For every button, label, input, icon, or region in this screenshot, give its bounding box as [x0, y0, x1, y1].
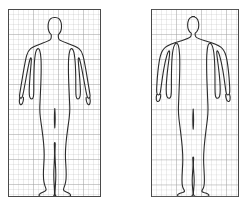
- lean-body-diagram: [8, 9, 101, 197]
- body-comparison-figure: [0, 0, 245, 210]
- heavy-body-panel: [151, 9, 239, 197]
- heavy-inner-leg-line: [193, 109, 194, 129]
- lean-body-panel: [8, 9, 101, 197]
- grid-major: [151, 9, 239, 197]
- lean-inner-leg-line: [54, 109, 55, 128]
- heavy-body-diagram: [151, 9, 239, 197]
